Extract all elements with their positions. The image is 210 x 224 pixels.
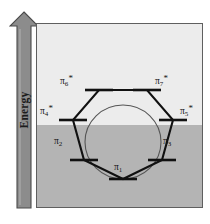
mo-label-pi3-subscript: 3 <box>168 140 172 148</box>
orbital-diagram <box>37 24 202 207</box>
mo-label-pi5-subscript: 5 <box>185 110 189 118</box>
mo-label-pi1: π1 <box>114 160 123 174</box>
mo-label-pi6-star: * <box>69 73 74 83</box>
energy-axis-arrow <box>9 10 39 210</box>
mo-label-pi5: π5* <box>180 104 193 118</box>
mo-label-pi4: π4* <box>40 104 53 118</box>
mo-label-pi5-star: * <box>189 103 194 113</box>
mo-label-pi3: π3 <box>163 134 172 148</box>
mo-label-pi2-subscript: 2 <box>59 140 63 148</box>
frost-circle-figure: Energy <box>0 0 210 224</box>
mo-label-pi6: π6* <box>60 74 73 88</box>
mo-label-pi7-star: * <box>164 73 169 83</box>
mo-label-pi4-star: * <box>49 103 54 113</box>
mo-label-pi1-subscript: 1 <box>119 166 123 174</box>
mo-label-pi2: π2 <box>54 134 63 148</box>
mo-label-pi6-subscript: 6 <box>65 80 69 88</box>
mo-label-pi7: π7* <box>155 74 168 88</box>
heptagon-outline <box>73 90 173 179</box>
mo-label-pi7-subscript: 7 <box>160 80 164 88</box>
orbital-plot-panel <box>36 23 203 208</box>
frost-circle <box>85 105 161 179</box>
mo-label-pi4-subscript: 4 <box>45 110 49 118</box>
up-arrow-icon <box>10 12 38 208</box>
